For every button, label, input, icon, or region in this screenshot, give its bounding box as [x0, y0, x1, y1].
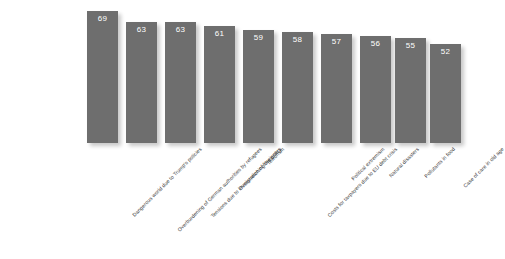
x-axis-tick-label: Pollutants in food [423, 146, 456, 179]
bar-slot: 55 [395, 38, 426, 143]
bar-slot: 61 [204, 26, 235, 143]
x-axis-tick-label: Case of care in old age [462, 146, 505, 189]
bar-value-label: 61 [204, 29, 235, 39]
bar-slot: 69 [87, 11, 118, 143]
bar-slot: 63 [165, 22, 196, 143]
bar-value-label: 55 [395, 41, 426, 51]
bar-value-label: 63 [126, 25, 157, 35]
x-axis-tick-label: Dangerous world due to Trump's policies [131, 146, 203, 218]
bar-value-label: 57 [321, 37, 352, 47]
bar-slot: 59 [243, 30, 274, 143]
bar-value-label: 58 [282, 35, 313, 45]
bar[interactable]: 69 [87, 11, 118, 143]
bar-slot: 52 [430, 44, 461, 143]
bar-value-label: 69 [87, 14, 118, 24]
bar-slot: 56 [360, 36, 391, 143]
bar[interactable]: 63 [165, 22, 196, 143]
bar[interactable]: 56 [360, 36, 391, 143]
bar-value-label: 63 [165, 25, 196, 35]
bar[interactable]: 61 [204, 26, 235, 143]
bar-slot: 58 [282, 32, 313, 143]
bar-value-label: 52 [430, 47, 461, 57]
bar[interactable]: 52 [430, 44, 461, 143]
bar-slot: 57 [321, 34, 352, 143]
bar[interactable]: 55 [395, 38, 426, 143]
bar[interactable]: 58 [282, 32, 313, 143]
bar[interactable]: 63 [126, 22, 157, 143]
bar[interactable]: 59 [243, 30, 274, 143]
bar[interactable]: 57 [321, 34, 352, 143]
bar-value-label: 59 [243, 33, 274, 43]
bar-slot: 63 [126, 22, 157, 143]
x-axis-tick-label: Costs for taxpayers due to EU debt crisi… [326, 146, 398, 218]
bar-value-label: 56 [360, 39, 391, 49]
